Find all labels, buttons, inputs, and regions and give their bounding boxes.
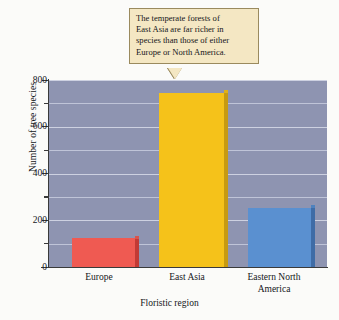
y-tick-100: [44, 243, 49, 244]
gridline-800: [49, 80, 327, 81]
y-tick-label-600: 600: [7, 121, 47, 131]
y-tick-700: [44, 103, 49, 104]
x-label-eastern-north-america-line1: Eastern North: [222, 272, 326, 284]
bar-east-asia-top: [224, 90, 228, 93]
bar-europe-face: [72, 238, 135, 267]
x-label-eastern-north-america: Eastern North America: [222, 272, 326, 295]
bar-europe[interactable]: [72, 238, 135, 267]
annotation-callout: The temperate forests of East Asia are f…: [129, 8, 259, 64]
y-tick-label-0: 0: [7, 262, 47, 272]
annotation-line-3: species than those of either: [136, 35, 252, 46]
y-tick-label-200: 200: [7, 215, 47, 225]
annotation-line-2: East Asia are far richer in: [136, 24, 252, 35]
bar-eastern-north-america-side: [311, 208, 315, 267]
y-tick-500: [44, 150, 49, 151]
bar-eastern-north-america-top: [311, 205, 315, 208]
annotation-line-4: Europe or North America.: [136, 47, 252, 58]
x-axis-line: [41, 267, 328, 268]
y-tick-label-400: 400: [7, 168, 47, 178]
bar-east-asia-side: [224, 93, 228, 267]
x-axis-title: Floristic region: [0, 298, 339, 308]
bar-europe-side: [135, 238, 139, 267]
bar-eastern-north-america-face: [248, 208, 311, 267]
y-tick-label-800: 800: [7, 75, 47, 85]
bar-eastern-north-america[interactable]: [248, 208, 311, 267]
annotation-callout-tail-icon: [168, 68, 182, 79]
annotation-line-1: The temperate forests of: [136, 13, 252, 24]
bar-europe-top: [135, 236, 139, 239]
bar-east-asia-face: [159, 93, 224, 267]
x-label-eastern-north-america-line2: America: [222, 284, 326, 296]
chart-figure: Number of tree species: [0, 0, 339, 320]
plot-area: [49, 80, 327, 267]
y-tick-300: [44, 196, 49, 197]
bar-east-asia[interactable]: [159, 93, 224, 267]
